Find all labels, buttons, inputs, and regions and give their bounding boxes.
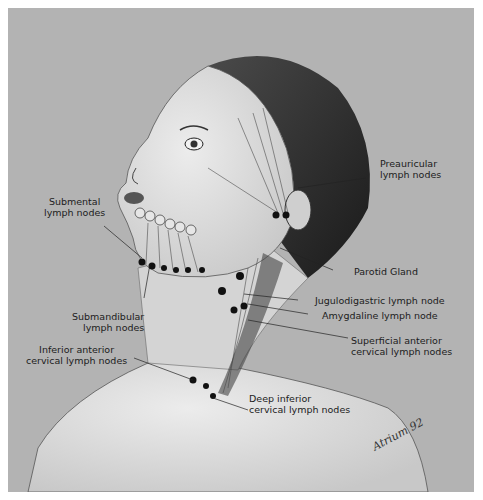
label-amygdaline: Amygdaline lymph node	[322, 310, 438, 321]
label-preauricular: Preauricular lymph nodes	[380, 158, 441, 180]
label-superficial-anterior-cervical: Superficial anterior cervical lymph node…	[351, 335, 452, 357]
pupil	[191, 141, 198, 148]
ear	[285, 190, 311, 230]
label-jugulodigastric: Jugulodigastric lymph node	[315, 295, 445, 306]
label-parotid-gland: Parotid Gland	[354, 266, 418, 277]
label-submandibular: Submandibular lymph nodes	[72, 311, 144, 333]
illustration-frame: Preauricular lymph nodes Submental lymph…	[8, 8, 474, 492]
label-deep-inferior-cervical: Deep inferior cervical lymph nodes	[249, 393, 350, 415]
head-neck-illustration	[8, 8, 474, 492]
label-inferior-anterior-cervical: Inferior anterior cervical lymph nodes	[26, 344, 127, 366]
lips	[124, 192, 144, 204]
label-submental: Submental lymph nodes	[44, 196, 105, 218]
